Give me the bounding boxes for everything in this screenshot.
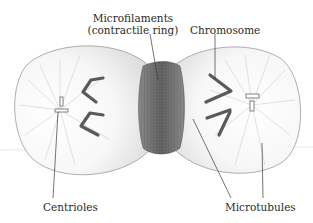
- microtubules-label: Microtubules: [225, 201, 296, 213]
- chromosome-label: Chromosome: [190, 24, 260, 36]
- microfilaments-label-line2: (contractile ring): [78, 24, 188, 36]
- microfilaments-label-line1: Microfilaments: [78, 12, 188, 24]
- cytokinesis-diagram: Microfilaments (contractile ring) Chromo…: [0, 0, 313, 223]
- microfilaments-label: Microfilaments (contractile ring): [78, 12, 188, 36]
- centrioles-label: Centrioles: [43, 201, 98, 213]
- left-daughter-cell: [15, 46, 150, 175]
